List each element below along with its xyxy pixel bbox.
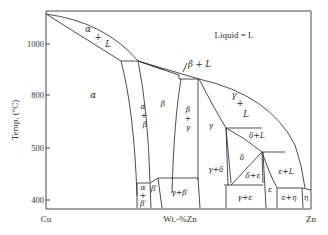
gamma-betap-right <box>198 178 200 208</box>
solidus-alpha <box>46 14 121 61</box>
betap-top <box>150 178 185 183</box>
label-gamma: γ <box>209 121 214 130</box>
label-eps: ε <box>268 185 272 194</box>
betap-right <box>158 178 162 208</box>
label-beta: β <box>160 99 166 108</box>
beta-liquidus-continuation <box>138 61 164 70</box>
label-eta: η <box>304 193 309 202</box>
label-gamma-betap: γ+β′ <box>172 188 189 197</box>
eta-top <box>302 188 311 190</box>
liquidus-alpha <box>46 14 138 61</box>
x-axis-label: Wt.-%Zn <box>163 214 197 224</box>
label-eps-L: ε+L <box>278 167 293 176</box>
label-eps-eta: ε+η <box>282 193 297 202</box>
label-bg-beta: β <box>185 105 191 114</box>
label-delta-L: δ+L <box>249 131 265 140</box>
label-ab-beta: β <box>142 120 148 129</box>
delta-eutectoid-left <box>231 152 262 185</box>
label-alphaL-plus: + <box>94 32 101 42</box>
x-label-cu: Cu <box>41 214 52 224</box>
label-gL-plus: + <box>236 98 243 108</box>
label-bg-plus: + <box>185 114 191 123</box>
label-ab-plus: + <box>141 111 147 120</box>
label-bg-gamma: γ <box>186 123 191 132</box>
tick-label-800: 800 <box>31 90 44 100</box>
eps-left-boundary <box>263 152 266 208</box>
tick-label-400: 400 <box>31 195 44 205</box>
liquid-note: Liquid = L <box>214 30 253 40</box>
label-abp-betap: β′ <box>139 199 146 208</box>
label-alpha: α <box>90 90 96 100</box>
label-beta-L: β + L <box>187 59 211 69</box>
beta-solvus-right <box>172 79 181 193</box>
tick-label-1000: 1000 <box>27 39 44 49</box>
tick-label-500: 500 <box>31 143 44 153</box>
label-gamma-eps: γ+ε <box>238 193 253 202</box>
label-alphaL-L: L <box>104 39 111 49</box>
label-gamma-delta: γ+δ <box>208 165 224 174</box>
label-ab-alpha: α <box>140 102 145 111</box>
label-alphaL-alpha: α <box>85 24 91 34</box>
beta-L-pointer <box>183 63 187 72</box>
label-betap: β′ <box>150 184 157 193</box>
label-delta: δ <box>240 153 245 162</box>
label-gL-L: L <box>242 109 249 119</box>
label-delta-eps: δ+ε <box>246 171 261 180</box>
cu-zn-phase-diagram: 1000 800 500 400 Temp. (°C) Cu Wt.-%Zn Z… <box>0 0 328 235</box>
x-label-zn: Zn <box>306 214 316 224</box>
y-axis-label: Temp. (°C) <box>10 100 20 140</box>
alpha-solvus <box>121 61 137 196</box>
